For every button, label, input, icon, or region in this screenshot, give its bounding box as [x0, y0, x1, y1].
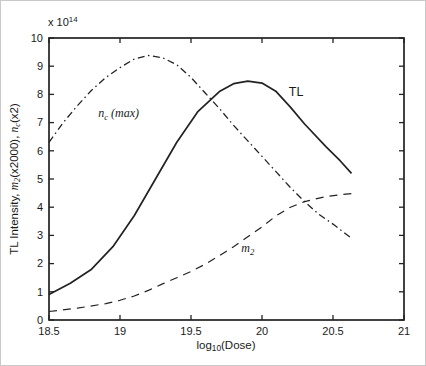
- annotation-m2: m2: [241, 241, 254, 257]
- svg-text:10: 10: [31, 32, 43, 44]
- annotation-tl: TL: [289, 85, 304, 99]
- annotation-nc-max: nc (max): [98, 106, 139, 122]
- svg-text:3: 3: [37, 229, 43, 241]
- svg-text:7: 7: [37, 116, 43, 128]
- figure: 18.51919.52020.521012345678910 TL Intens…: [0, 0, 426, 366]
- svg-text:0: 0: [37, 314, 43, 326]
- series-TL: [49, 81, 352, 295]
- svg-text:9: 9: [37, 60, 43, 72]
- y-axis-label: TL Intensity, m2(x2000), nc(x2): [8, 103, 22, 255]
- svg-text:18.5: 18.5: [38, 325, 59, 337]
- plot-area: 18.51919.52020.521012345678910: [1, 1, 426, 366]
- svg-text:5: 5: [37, 173, 43, 185]
- svg-text:19: 19: [114, 325, 126, 337]
- series-m2: [49, 193, 356, 311]
- svg-text:8: 8: [37, 88, 43, 100]
- x-axis-label: log10(Dose): [196, 339, 255, 353]
- svg-text:20.5: 20.5: [322, 325, 343, 337]
- y-axis-exponent-label: x 1014: [48, 15, 78, 28]
- svg-text:2: 2: [37, 257, 43, 269]
- svg-text:21: 21: [398, 325, 410, 337]
- svg-text:4: 4: [37, 201, 43, 213]
- axis-tick-labels: 18.51919.52020.521012345678910: [31, 32, 410, 337]
- svg-text:20: 20: [256, 325, 268, 337]
- svg-text:6: 6: [37, 145, 43, 157]
- svg-text:1: 1: [37, 286, 43, 298]
- series-nc(max): [49, 56, 352, 239]
- svg-text:19.5: 19.5: [180, 325, 201, 337]
